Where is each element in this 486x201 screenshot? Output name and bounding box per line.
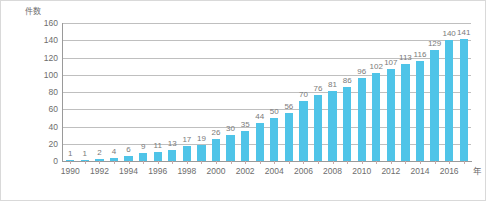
bar-value-label: 86 [343, 77, 352, 85]
bar[interactable] [285, 113, 293, 161]
bar[interactable] [314, 95, 322, 161]
bar-slot[interactable] [139, 23, 147, 161]
x-tick-mark [333, 161, 334, 164]
x-tick-mark [464, 161, 465, 164]
bar[interactable] [212, 139, 220, 161]
bar-value-label: 116 [414, 51, 427, 59]
bar-slot[interactable] [270, 23, 278, 161]
bar-value-label: 44 [255, 113, 264, 121]
bar-slot[interactable] [124, 23, 132, 161]
bar-slot[interactable] [343, 23, 351, 161]
x-tick-label: 1990 [61, 167, 80, 176]
x-tick-mark [216, 161, 217, 164]
bar[interactable] [372, 73, 380, 161]
x-tick-mark [347, 161, 348, 164]
y-tick-label: 140 [44, 36, 58, 45]
x-tick-label: 2008 [323, 167, 342, 176]
bar-value-label: 13 [168, 140, 177, 148]
bar-slot[interactable] [256, 23, 264, 161]
y-tick-label: 20 [49, 140, 58, 149]
bar-slot[interactable] [95, 23, 103, 161]
x-tick-label: 2006 [294, 167, 313, 176]
bar[interactable] [460, 39, 468, 161]
bar[interactable] [197, 145, 205, 161]
bar[interactable] [139, 153, 147, 161]
bar[interactable] [154, 152, 162, 161]
bar-slot[interactable] [328, 23, 336, 161]
x-tick-mark [391, 161, 392, 164]
y-axis-tick-labels: 020406080100120140160 [1, 23, 58, 161]
x-tick-mark [187, 161, 188, 164]
bar-value-label: 6 [126, 146, 130, 154]
bar-value-label: 1 [83, 150, 87, 158]
bar-value-label: 26 [212, 129, 221, 137]
x-tick-mark [158, 161, 159, 164]
bar-value-label: 76 [314, 85, 323, 93]
x-tick-mark [405, 161, 406, 164]
bar[interactable] [226, 135, 234, 161]
bar[interactable] [387, 69, 395, 161]
plot-area [63, 23, 471, 161]
bar-slot[interactable] [81, 23, 89, 161]
bar-value-label: 19 [197, 135, 206, 143]
bar[interactable] [241, 131, 249, 161]
bar-slot[interactable] [285, 23, 293, 161]
bar-value-label: 141 [457, 29, 470, 37]
bar-slot[interactable] [110, 23, 118, 161]
x-tick-mark [231, 161, 232, 164]
bar[interactable] [270, 118, 278, 161]
bar-slot[interactable] [358, 23, 366, 161]
bar-value-label: 102 [370, 63, 383, 71]
bar[interactable] [430, 50, 438, 161]
bar[interactable] [168, 150, 176, 161]
y-axis-title: 件数 [25, 5, 41, 16]
bar-value-label: 50 [270, 108, 279, 116]
bar-slot[interactable] [212, 23, 220, 161]
bar[interactable] [445, 40, 453, 161]
x-tick-label: 1992 [90, 167, 109, 176]
x-tick-mark [70, 161, 71, 164]
bar-value-label: 1 [68, 150, 72, 158]
x-tick-mark [143, 161, 144, 164]
bar-value-label: 56 [284, 103, 293, 111]
bar-slot[interactable] [372, 23, 380, 161]
bar-slot[interactable] [226, 23, 234, 161]
bar[interactable] [416, 61, 424, 161]
bar-slot[interactable] [241, 23, 249, 161]
x-tick-label: 2016 [440, 167, 459, 176]
x-tick-label: 2010 [352, 167, 371, 176]
y-tick-label: 40 [49, 123, 58, 132]
bar-value-label: 70 [299, 91, 308, 99]
bar-value-label: 17 [182, 136, 191, 144]
y-tick-label: 0 [53, 157, 58, 166]
bar-value-label: 96 [357, 68, 366, 76]
bar[interactable] [183, 146, 191, 161]
x-tick-label: 1998 [177, 167, 196, 176]
bar-value-label: 2 [97, 149, 101, 157]
bar-slot[interactable] [460, 23, 468, 161]
bar-slot[interactable] [445, 23, 453, 161]
bar-slot[interactable] [66, 23, 74, 161]
bar-value-label: 9 [141, 143, 145, 151]
bar[interactable] [401, 64, 409, 161]
x-tick-mark [260, 161, 261, 164]
bar-value-label: 35 [241, 121, 250, 129]
x-tick-label: 2000 [207, 167, 226, 176]
bar[interactable] [299, 101, 307, 161]
bar[interactable] [358, 78, 366, 161]
x-tick-label: 2002 [236, 167, 255, 176]
bar-slot[interactable] [401, 23, 409, 161]
x-tick-label: 1996 [148, 167, 167, 176]
bar[interactable] [343, 87, 351, 161]
bar-slot[interactable] [416, 23, 424, 161]
x-tick-label: 1994 [119, 167, 138, 176]
bar[interactable] [256, 123, 264, 161]
y-tick-label: 120 [44, 54, 58, 63]
x-tick-label: 2012 [381, 167, 400, 176]
bar-slot[interactable] [387, 23, 395, 161]
bar-value-label: 81 [328, 81, 337, 89]
y-tick-label: 100 [44, 71, 58, 80]
x-tick-mark [114, 161, 115, 164]
bar[interactable] [328, 91, 336, 161]
x-axis-line [62, 161, 472, 162]
